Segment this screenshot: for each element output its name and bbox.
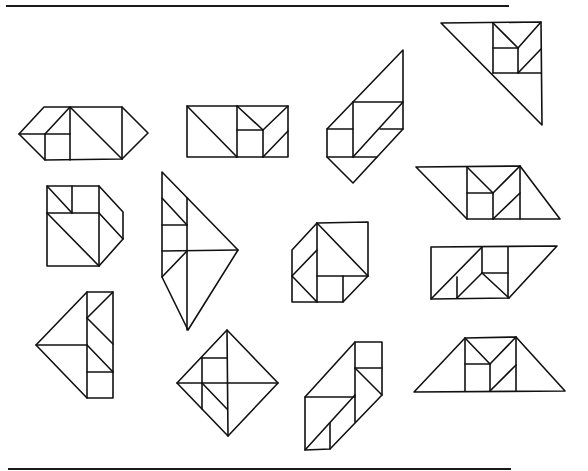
figure-trapezoid [414,337,565,392]
piece-edge [237,106,263,130]
piece-edge [482,273,509,298]
figure-tall-parallelogram [327,50,403,183]
piece-edge [202,383,227,409]
piece-edge [87,318,113,344]
piece-edge [292,250,317,276]
piece-edge [457,273,482,298]
piece-edge [162,251,187,277]
piece-edge [518,22,541,48]
piece-edge [355,368,382,395]
piece-edge [263,131,288,157]
figure-arrow-left [36,292,113,398]
piece-edge [490,337,516,364]
figure-parallelogram-lower-right [431,246,557,299]
figure-parallelogram-right [416,166,560,219]
figure-kite [162,172,238,330]
piece-edge [263,106,288,130]
figure-outline [305,342,382,450]
piece-edge [493,23,518,48]
piece-edge [47,213,99,266]
figure-diamond [177,330,278,436]
figure-outline [292,222,368,302]
piece-edge [518,49,541,73]
piece-edge [87,292,113,318]
piece-edge [162,198,187,225]
piece-edge [292,276,317,302]
piece-edge [162,250,238,251]
piece-edge [99,213,123,239]
tangram-drawing [0,0,588,471]
piece-edge [317,223,368,276]
figure-outline [327,50,403,183]
figure-square-with-wing [47,186,123,266]
piece-edge [467,167,493,193]
piece-edge [45,107,70,134]
figure-hexagon-left [19,107,148,160]
piece-edge [465,338,490,364]
tangram-figure-sheet [0,0,588,471]
figure-large-triangle-top-right [441,22,542,125]
piece-edge [70,107,122,159]
figure-slanted-bottom [305,342,382,450]
piece-edge [87,345,113,372]
piece-edge [47,186,72,213]
figure-square-notched [292,222,368,302]
piece-edge [493,166,520,193]
piece-edge [490,365,516,391]
figure-rectangle [187,106,288,157]
piece-edge [187,106,237,157]
piece-edge [493,193,520,219]
